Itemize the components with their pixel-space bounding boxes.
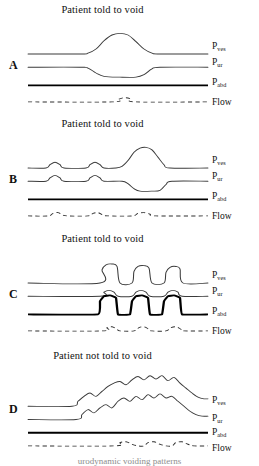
label-p-abd: Pabd [212,307,226,317]
panel-c: Patient told to void C Pves Pur Pabd Flo… [0,229,259,344]
panel-b-traces [28,130,208,225]
label-p-abd: Pabd [212,428,226,438]
trace-ur [28,175,208,191]
label-flow: Flow [212,98,232,108]
panel-c-title: Patient told to void [0,233,205,244]
trace-flow [28,213,208,217]
trace-ves [28,376,208,407]
panel-d-traces [28,360,208,455]
panel-a: Patient told to void A Pves Pur Pabd Flo… [0,0,259,115]
label-p-abd: Pabd [212,78,226,88]
panel-b-plot [28,130,208,225]
panel-d-plot [28,360,208,455]
label-flow: Flow [212,444,232,454]
label-p-ur: Pur [212,172,222,182]
panel-b: Patient told to void B Pves Pur Pabd Flo… [0,114,259,229]
panel-d-labels: Pves Pur Pabd Flow [212,360,259,455]
label-flow: Flow [212,327,232,337]
trace-abd [28,295,208,314]
panel-a-traces [28,16,208,111]
trace-ves [28,147,208,168]
panel-b-labels: Pves Pur Pabd Flow [212,130,259,225]
label-p-ves: Pves [212,42,226,52]
panel-a-title: Patient told to void [0,4,205,15]
panel-c-letter: C [9,287,18,302]
panel-a-labels: Pves Pur Pabd Flow [212,16,259,111]
trace-ur [28,290,208,296]
trace-ves [28,33,208,54]
label-p-ves: Pves [212,396,226,406]
panel-c-traces [28,245,208,340]
figure-caption: urodynamic voiding patterns [0,456,259,466]
trace-flow [28,327,208,332]
label-p-ur: Pur [212,414,222,424]
trace-ur [28,67,208,77]
label-p-ves: Pves [212,156,226,166]
trace-flow [28,442,208,447]
label-flow: Flow [212,212,232,222]
panel-a-letter: A [9,58,18,73]
label-p-ur: Pur [212,287,222,297]
panel-b-title: Patient told to void [0,118,205,129]
label-p-ves: Pves [212,271,226,281]
panel-b-letter: B [9,172,17,187]
panel-d: Patient not told to void D Pves Pur Pabd… [0,344,259,459]
panel-c-plot [28,245,208,340]
panel-d-letter: D [9,402,18,417]
trace-ves [28,264,208,285]
panel-a-plot [28,16,208,111]
label-p-abd: Pabd [212,192,226,202]
panel-c-labels: Pves Pur Pabd Flow [212,245,259,340]
label-p-ur: Pur [212,58,222,68]
trace-flow [28,98,208,102]
